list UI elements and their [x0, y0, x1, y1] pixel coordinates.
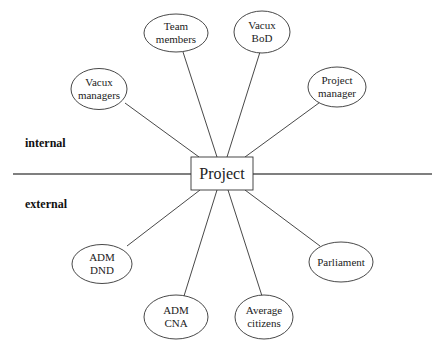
edge-vacux-managers — [125, 103, 199, 157]
project-node: Project — [191, 157, 253, 190]
external-label: external — [25, 197, 68, 211]
average-citizens-label-1: Average — [246, 304, 283, 316]
edge-adm-dnd — [127, 190, 200, 246]
project-manager-label-1: Project — [321, 74, 352, 86]
edge-average-citizens — [228, 190, 262, 296]
team-members-label-1: Team — [164, 20, 189, 32]
vacux-managers-label-1: Vacux — [85, 76, 113, 88]
node-team-members: Team members — [144, 14, 208, 52]
vacux-bod-label-2: BoD — [252, 32, 273, 44]
node-parliament: Parliament — [309, 242, 373, 282]
adm-dnd-label-2: DND — [90, 264, 114, 276]
average-citizens-label-2: citizens — [247, 317, 281, 329]
node-vacux-managers: Vacux managers — [71, 69, 127, 110]
project-manager-label-2: manager — [318, 87, 356, 99]
project-label: Project — [199, 165, 245, 183]
adm-dnd-label-1: ADM — [89, 251, 115, 263]
node-adm-cna: ADM CNA — [144, 295, 208, 339]
node-project-manager: Project manager — [308, 67, 366, 107]
edge-adm-cna — [184, 190, 217, 296]
vacux-bod-label-1: Vacux — [248, 19, 276, 31]
parliament-label: Parliament — [317, 256, 365, 268]
edge-team-members — [183, 52, 217, 157]
adm-cna-label-2: CNA — [164, 317, 187, 329]
node-adm-dnd: ADM DND — [72, 245, 132, 284]
edge-parliament — [245, 190, 320, 246]
vacux-managers-label-2: managers — [78, 89, 120, 101]
team-members-label-2: members — [156, 33, 196, 45]
stakeholder-diagram: Project internal external Vacux managers… — [0, 0, 443, 352]
edge-vacux-bod — [227, 52, 260, 157]
node-average-citizens: Average citizens — [235, 295, 293, 339]
node-vacux-bod: Vacux BoD — [234, 11, 290, 53]
adm-cna-label-1: ADM — [163, 304, 189, 316]
edge-project-manager — [245, 100, 323, 157]
internal-label: internal — [25, 136, 66, 150]
